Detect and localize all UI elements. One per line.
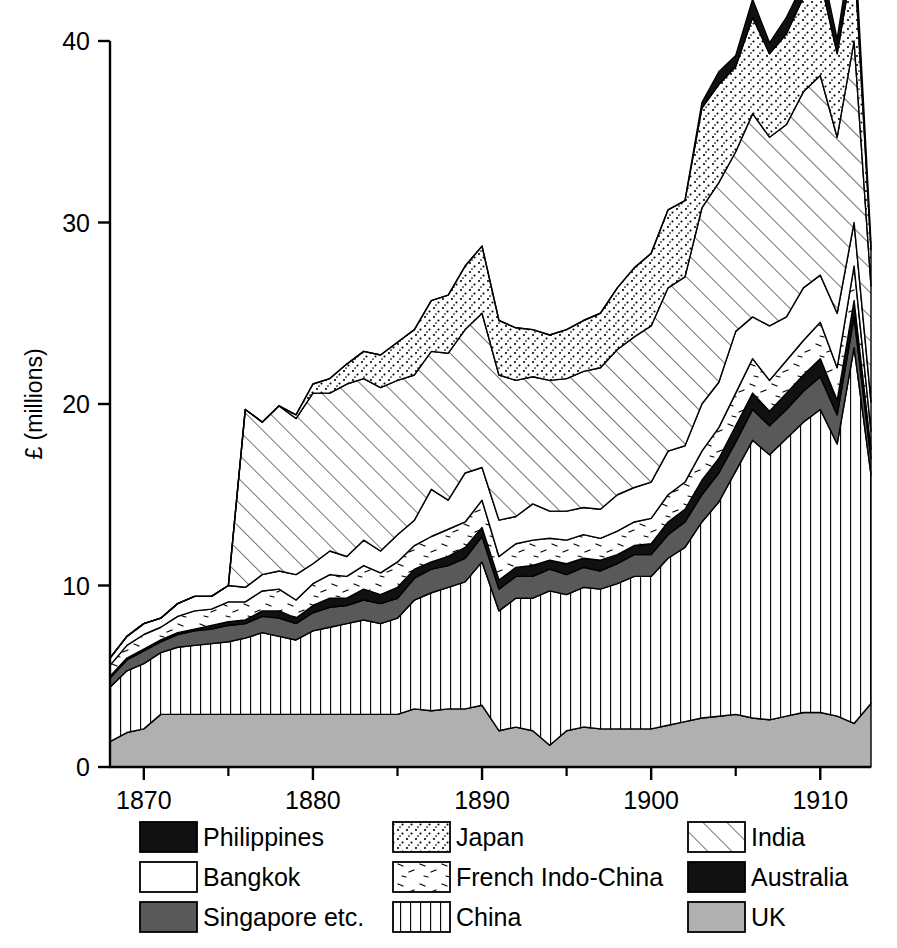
x-tick-label: 1910 bbox=[792, 786, 848, 814]
legend-swatch-bangkok bbox=[140, 862, 197, 892]
legend-item: French Indo-China bbox=[393, 862, 663, 892]
chart-figure: 010203040 18701880189019001910 £ (millio… bbox=[0, 0, 897, 948]
legend-swatch-french-indo-china bbox=[393, 862, 450, 892]
y-axis-title: £ (millions) bbox=[21, 348, 47, 459]
legend-label: Philippines bbox=[203, 823, 324, 851]
legend-swatch-china bbox=[393, 902, 450, 932]
legend-item: India bbox=[688, 822, 805, 852]
legend-item: Australia bbox=[688, 862, 848, 892]
legend-item: Singapore etc. bbox=[140, 902, 364, 932]
legend-label: French Indo-China bbox=[456, 863, 663, 891]
x-axis-tick-labels: 18701880189019001910 bbox=[116, 786, 848, 814]
legend-item: Japan bbox=[393, 822, 524, 852]
y-axis-title-text: £ (millions) bbox=[21, 348, 47, 459]
y-tick-label: 0 bbox=[76, 753, 90, 781]
y-tick-label: 20 bbox=[62, 390, 90, 418]
stacked-areas bbox=[110, 0, 871, 767]
legend-label: UK bbox=[751, 903, 786, 931]
legend-label: Bangkok bbox=[203, 863, 301, 891]
x-tick-label: 1870 bbox=[116, 786, 172, 814]
y-tick-label: 30 bbox=[62, 209, 90, 237]
legend-swatch-japan bbox=[393, 822, 450, 852]
chart-svg: 010203040 18701880189019001910 £ (millio… bbox=[0, 0, 897, 948]
legend-item: China bbox=[393, 902, 521, 932]
legend-swatch-australia bbox=[688, 862, 745, 892]
x-tick-label: 1890 bbox=[454, 786, 510, 814]
legend-label: China bbox=[456, 903, 521, 931]
legend-label: Singapore etc. bbox=[203, 903, 364, 931]
chart-legend: PhilippinesBangkokSingapore etc.JapanFre… bbox=[140, 822, 848, 932]
legend-label: Japan bbox=[456, 823, 524, 851]
x-tick-label: 1880 bbox=[285, 786, 341, 814]
legend-swatch-uk bbox=[688, 902, 745, 932]
legend-item: Philippines bbox=[140, 822, 324, 852]
legend-swatch-india bbox=[688, 822, 745, 852]
legend-label: India bbox=[751, 823, 805, 851]
x-tick-label: 1900 bbox=[623, 786, 679, 814]
legend-item: Bangkok bbox=[140, 862, 301, 892]
legend-swatch-singapore-etc bbox=[140, 902, 197, 932]
legend-swatch-philippines bbox=[140, 822, 197, 852]
y-tick-label: 40 bbox=[62, 27, 90, 55]
legend-label: Australia bbox=[751, 863, 848, 891]
y-axis-tick-labels: 010203040 bbox=[62, 27, 90, 781]
y-tick-label: 10 bbox=[62, 572, 90, 600]
legend-item: UK bbox=[688, 902, 786, 932]
